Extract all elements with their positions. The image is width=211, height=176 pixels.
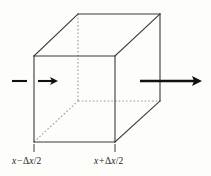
control-volume-cube-figure (0, 0, 211, 176)
tick-marks-group (34, 144, 115, 152)
hidden-edge-back-bottom-left (34, 101, 78, 142)
edge-connect-top-right (115, 14, 160, 56)
label-left-divisor: /2 (34, 156, 42, 166)
edge-connect-bottom-right (115, 101, 160, 142)
inflow-arrow (12, 77, 58, 85)
flow-arrows-group (12, 76, 202, 86)
edge-connect-top-left (34, 14, 78, 56)
label-x-plus-delta-x-over-2: x+Δx/2 (94, 156, 124, 166)
hidden-edges-group (34, 14, 160, 142)
label-x-minus-delta-x-over-2: x−Δx/2 (12, 156, 42, 166)
outflow-arrow (140, 76, 202, 86)
visible-edges-group (34, 14, 160, 142)
label-right-divisor: /2 (116, 156, 124, 166)
